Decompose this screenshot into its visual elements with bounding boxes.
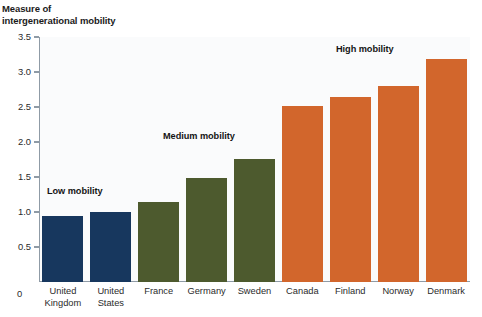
y-axis-tick-label: 2.0 [18, 136, 31, 147]
x-axis-label: UnitedStates [87, 285, 135, 310]
bar [234, 159, 275, 282]
y-axis-tick-label: 2.5 [18, 101, 31, 112]
chart-page: Measure of intergenerational mobility 3.… [0, 0, 482, 317]
group-annotation: High mobility [336, 44, 394, 54]
bar-fill [330, 97, 371, 283]
x-axis-label-line: Norway [374, 285, 422, 297]
x-axis-label-line: Canada [278, 285, 326, 297]
bar [378, 86, 419, 282]
x-axis-label-line: United [87, 285, 135, 297]
group-annotation: Low mobility [47, 186, 103, 196]
bar [138, 202, 179, 283]
x-axis-label: Denmark [422, 285, 470, 297]
bar [90, 212, 131, 282]
bar-fill [138, 202, 179, 283]
x-axis-label-line: Denmark [422, 285, 470, 297]
y-axis-zero-label: 0 [17, 288, 22, 299]
x-axis-label: UnitedKingdom [39, 285, 87, 310]
y-axis-tick-label: 0.5 [18, 241, 31, 252]
x-axis-label: France [135, 285, 183, 297]
x-axis-label: Norway [374, 285, 422, 297]
bar [426, 59, 467, 282]
x-axis-label-line: Sweden [231, 285, 279, 297]
y-axis: 3.53.02.52.01.51.00.5 [0, 0, 39, 317]
x-axis-label: Canada [278, 285, 326, 297]
bar [186, 178, 227, 282]
x-axis-label-line: Germany [183, 285, 231, 297]
x-axis-label: Sweden [231, 285, 279, 297]
x-axis-label-line: United [39, 285, 87, 297]
bar [42, 216, 83, 282]
bar-fill [90, 212, 131, 282]
bar-fill [234, 159, 275, 282]
bar-series [39, 37, 470, 282]
x-axis-label-line: States [87, 297, 135, 309]
bar [330, 97, 371, 283]
x-axis-label-line: Kingdom [39, 297, 87, 309]
x-axis-label: Germany [183, 285, 231, 297]
x-axis-label: Finland [326, 285, 374, 297]
x-axis-label-line: France [135, 285, 183, 297]
bar-fill [282, 106, 323, 282]
x-axis-label-line: Finland [326, 285, 374, 297]
group-annotation: Medium mobility [163, 131, 235, 141]
bar-fill [186, 178, 227, 282]
y-axis-tick-label: 3.0 [18, 66, 31, 77]
bar-fill [42, 216, 83, 282]
bar-fill [378, 86, 419, 282]
y-axis-tick-label: 1.0 [18, 206, 31, 217]
bar [282, 106, 323, 282]
y-axis-tick-label: 1.5 [18, 171, 31, 182]
y-axis-tick-label: 3.5 [18, 31, 31, 42]
bar-fill [426, 59, 467, 282]
x-axis-labels: UnitedKingdomUnitedStatesFranceGermanySw… [39, 285, 470, 317]
